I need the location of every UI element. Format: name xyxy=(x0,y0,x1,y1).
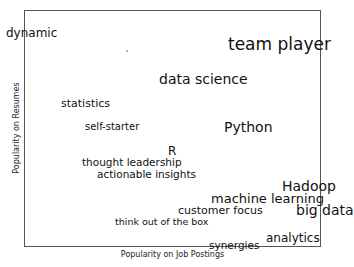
word-label-team-player: team player xyxy=(228,36,331,53)
word-label-thought-leadership: thought leadership xyxy=(82,157,182,168)
word-label-data-science: data science xyxy=(159,72,248,86)
stray-marker-dot xyxy=(126,50,128,52)
x-axis-label: Popularity on Job Postings xyxy=(0,250,345,259)
word-label-synergies: synergies xyxy=(209,240,259,251)
word-label-statistics: statistics xyxy=(61,98,110,109)
word-label-customer-focus: customer focus xyxy=(178,205,263,216)
word-label-python: Python xyxy=(224,120,273,134)
word-label-think-out-of-the-box: think out of the box xyxy=(115,217,208,227)
word-label-analytics: analytics xyxy=(266,232,320,244)
y-axis-label: Popularity on Resumes xyxy=(12,82,21,173)
word-label-big-data: big data xyxy=(296,203,354,217)
word-label-actionable-insights: actionable insights xyxy=(97,169,196,180)
word-label-self-starter: self-starter xyxy=(85,122,139,132)
word-label-dynamic: dynamic xyxy=(6,27,57,39)
